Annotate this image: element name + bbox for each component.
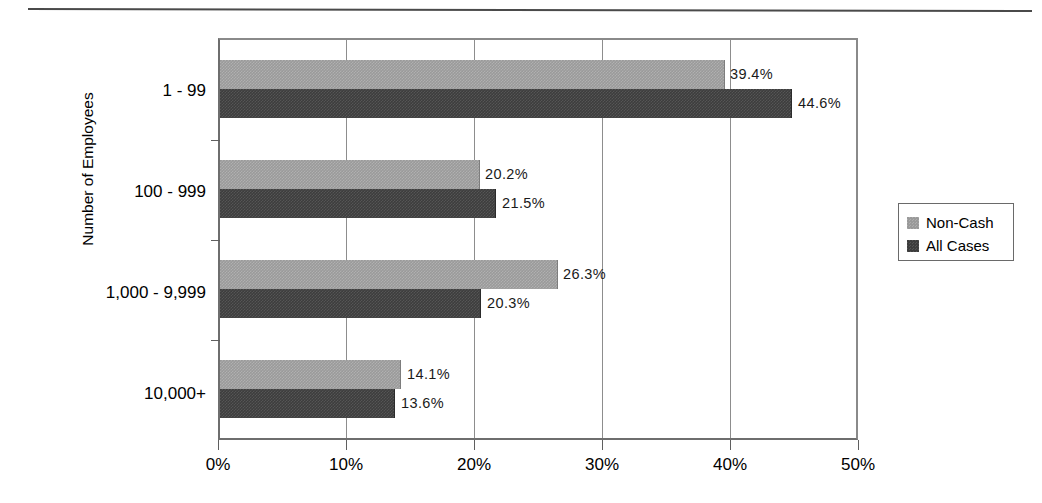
x-axis-label-0: 0% <box>178 456 258 473</box>
chart-legend: Non-Cash All Cases <box>898 203 1014 261</box>
x-axis-tick-1 <box>346 440 347 450</box>
y-axis-label-0: 1 - 99 <box>0 82 206 99</box>
bar-label-non-cash-1-99: 39.4% <box>730 67 773 82</box>
bar-non-cash-100-999[interactable] <box>220 160 480 189</box>
x-axis-label-2: 20% <box>434 456 514 473</box>
bar-group-1-99: 39.4% 44.6% <box>220 40 856 140</box>
legend-label-all-cases: All Cases <box>926 237 989 254</box>
bar-all-cases-1-99[interactable] <box>220 89 792 118</box>
bar-group-1000-9999: 26.3% 20.3% <box>220 240 856 340</box>
legend-entry-all-cases[interactable]: All Cases <box>907 237 989 254</box>
y-axis-tick-2 <box>211 240 220 241</box>
bar-label-all-cases-1-99: 44.6% <box>798 96 841 111</box>
bar-label-non-cash-10000-plus: 14.1% <box>407 367 450 382</box>
bar-label-all-cases-100-999: 21.5% <box>502 196 545 211</box>
y-axis-label-1: 100 - 999 <box>0 183 206 200</box>
bar-all-cases-100-999[interactable] <box>220 189 496 218</box>
x-axis-label-5: 50% <box>818 456 898 473</box>
plot-area: 39.4% 44.6% 20.2% 21.5% 26.3% 20.3% 14.1… <box>218 38 858 440</box>
x-axis-tick-2 <box>474 440 475 450</box>
x-axis-tick-5 <box>858 440 859 450</box>
bar-label-non-cash-1000-9999: 26.3% <box>563 267 606 282</box>
legend-swatch-all-cases-icon <box>907 240 919 252</box>
y-axis-label-3: 10,000+ <box>0 385 206 402</box>
x-axis-label-4: 40% <box>690 456 770 473</box>
y-axis-tick-3 <box>211 340 220 341</box>
legend-label-non-cash: Non-Cash <box>926 214 994 231</box>
bar-label-non-cash-100-999: 20.2% <box>485 167 528 182</box>
bar-group-100-999: 20.2% 21.5% <box>220 140 856 240</box>
x-axis-label-3: 30% <box>562 456 642 473</box>
x-axis-tick-3 <box>602 440 603 450</box>
bar-non-cash-1000-9999[interactable] <box>220 260 558 289</box>
legend-swatch-non-cash-icon <box>907 217 919 229</box>
x-axis-tick-0 <box>218 440 219 450</box>
y-axis-label-2: 1,000 - 9,999 <box>0 284 206 301</box>
bar-all-cases-1000-9999[interactable] <box>220 289 481 318</box>
bar-label-all-cases-10000-plus: 13.6% <box>401 396 444 411</box>
x-axis-label-1: 10% <box>306 456 386 473</box>
legend-entry-non-cash[interactable]: Non-Cash <box>907 214 994 231</box>
y-axis-tick-1 <box>211 140 220 141</box>
bar-label-all-cases-1000-9999: 20.3% <box>487 296 530 311</box>
bar-non-cash-10000-plus[interactable] <box>220 360 401 389</box>
bar-non-cash-1-99[interactable] <box>220 60 725 89</box>
chart-page: Number of Employees 1 - 99 100 - 999 1,0… <box>0 0 1042 503</box>
bar-group-10000-plus: 14.1% 13.6% <box>220 340 856 440</box>
y-axis-category-labels: 1 - 99 100 - 999 1,000 - 9,999 10,000+ <box>0 0 206 503</box>
x-axis-tick-4 <box>730 440 731 450</box>
bar-all-cases-10000-plus[interactable] <box>220 389 395 418</box>
